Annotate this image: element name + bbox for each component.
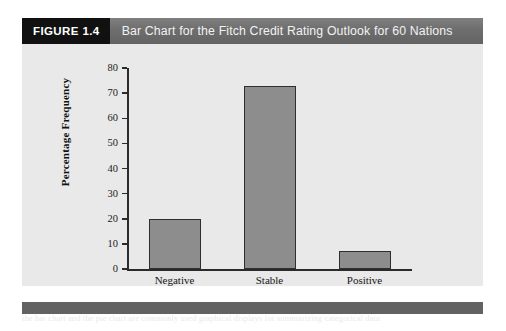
bar-chart: Percentage Frequency Fitch Outlook 01020… — [22, 44, 483, 286]
y-tick-mark — [122, 243, 127, 245]
y-tick-label: 60 — [96, 113, 118, 123]
y-axis-title: Percentage Frequency — [59, 47, 71, 217]
y-tick-label: 40 — [96, 164, 118, 174]
figure-footer-band — [22, 302, 483, 314]
y-tick-label: 10 — [96, 239, 118, 249]
y-tick-label: 0 — [96, 264, 118, 274]
figure-title: Bar Chart for the Fitch Credit Rating Ou… — [110, 18, 453, 44]
bar-negative — [149, 219, 201, 269]
x-axis-line — [127, 269, 412, 271]
figure-caption-bar: FIGURE 1.4 Bar Chart for the Fitch Credi… — [22, 18, 483, 44]
figure-number-badge: FIGURE 1.4 — [22, 18, 110, 44]
y-tick-mark — [122, 268, 127, 270]
figure-container: FIGURE 1.4 Bar Chart for the Fitch Credi… — [22, 18, 483, 300]
x-tick-label-stable: Stable — [225, 274, 315, 286]
x-tick-label-negative: Negative — [130, 274, 220, 286]
y-tick-label: 20 — [96, 214, 118, 224]
y-tick-label: 80 — [96, 63, 118, 73]
y-tick-label: 50 — [96, 138, 118, 148]
bar-positive — [339, 251, 391, 269]
bar-stable — [244, 86, 296, 269]
y-tick-mark — [122, 67, 127, 69]
y-tick-label: 70 — [96, 88, 118, 98]
x-tick-label-positive: Positive — [320, 274, 410, 286]
y-tick-mark — [122, 193, 127, 195]
y-tick-label: 30 — [96, 189, 118, 199]
y-axis-line — [127, 68, 129, 270]
chart-panel: Percentage Frequency Fitch Outlook 01020… — [22, 44, 483, 286]
y-tick-mark — [122, 168, 127, 170]
y-tick-mark — [122, 218, 127, 220]
y-tick-mark — [122, 118, 127, 120]
y-tick-mark — [122, 92, 127, 94]
y-tick-mark — [122, 143, 127, 145]
